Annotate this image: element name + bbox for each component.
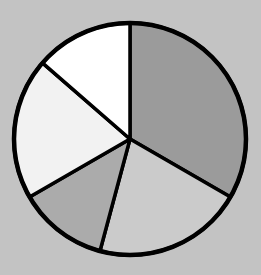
pie-chart-canvas <box>0 0 261 275</box>
pie-chart-figure <box>0 0 261 275</box>
